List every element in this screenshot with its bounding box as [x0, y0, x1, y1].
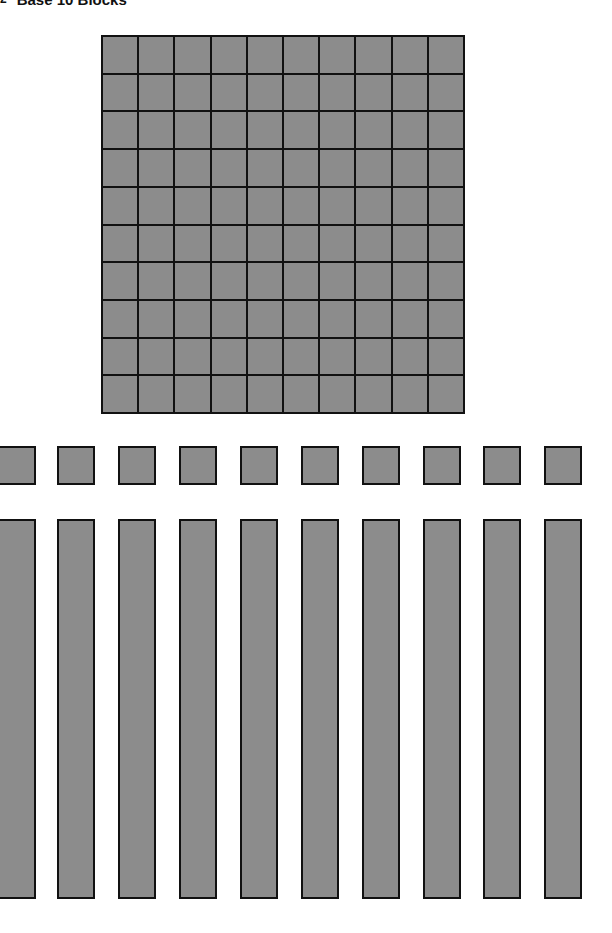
hundred-cell — [356, 263, 390, 299]
hundred-cell — [356, 188, 390, 224]
hundred-cell — [248, 339, 282, 375]
hundred-cell — [429, 150, 463, 186]
hundred-cell — [212, 226, 246, 262]
ten-rod — [483, 519, 521, 899]
ten-rod — [301, 519, 339, 899]
hundred-cell — [429, 37, 463, 73]
hundred-cell — [212, 376, 246, 412]
hundred-cell — [175, 75, 209, 111]
unit-cube — [483, 446, 521, 485]
hundred-cell — [284, 226, 318, 262]
hundred-cell — [139, 75, 173, 111]
hundred-cell — [212, 301, 246, 337]
hundred-cell — [212, 112, 246, 148]
hundred-cell — [175, 263, 209, 299]
ten-rod — [118, 519, 156, 899]
unit-cube — [240, 446, 278, 485]
hundred-cell — [212, 263, 246, 299]
hundred-cell — [139, 188, 173, 224]
hundred-cell — [103, 188, 137, 224]
hundred-cell — [356, 75, 390, 111]
unit-cube — [0, 446, 36, 485]
hundred-cell — [393, 226, 427, 262]
hundred-cell — [356, 226, 390, 262]
ten-rod — [240, 519, 278, 899]
hundred-cell — [284, 263, 318, 299]
unit-cube — [544, 446, 582, 485]
hundred-cell — [393, 188, 427, 224]
hundred-cell — [103, 376, 137, 412]
hundred-cell — [284, 188, 318, 224]
hundred-cell — [429, 75, 463, 111]
hundred-cell — [212, 150, 246, 186]
hundred-cell — [175, 339, 209, 375]
hundred-cell — [320, 301, 354, 337]
hundred-cell — [429, 226, 463, 262]
hundred-cell — [212, 188, 246, 224]
hundred-cell — [212, 37, 246, 73]
ten-rod — [57, 519, 95, 899]
hundred-cell — [139, 226, 173, 262]
hundred-cell — [320, 226, 354, 262]
hundred-cell — [175, 301, 209, 337]
hundred-cell — [175, 37, 209, 73]
unit-cube — [301, 446, 339, 485]
hundred-cell — [320, 263, 354, 299]
hundred-cell — [320, 376, 354, 412]
hundred-cell — [284, 376, 318, 412]
unit-cube — [362, 446, 400, 485]
hundred-cell — [212, 75, 246, 111]
unit-cube — [423, 446, 461, 485]
hundred-cell — [175, 188, 209, 224]
hundred-cell — [356, 37, 390, 73]
hundred-cell — [393, 263, 427, 299]
hundred-cell — [103, 112, 137, 148]
hundred-cell — [175, 150, 209, 186]
hundred-cell — [103, 263, 137, 299]
hundred-cell — [103, 339, 137, 375]
hundred-cell — [284, 339, 318, 375]
ten-rod — [179, 519, 217, 899]
ten-rod — [544, 519, 582, 899]
ten-rod — [0, 519, 36, 899]
hundred-cell — [320, 150, 354, 186]
hundred-cell — [284, 75, 318, 111]
hundred-cell — [284, 150, 318, 186]
unit-cube — [57, 446, 95, 485]
hundred-cell — [248, 301, 282, 337]
ten-rod — [362, 519, 400, 899]
hundred-cell — [139, 150, 173, 186]
hundred-cell — [393, 376, 427, 412]
unit-cube — [118, 446, 156, 485]
hundred-cell — [103, 301, 137, 337]
hundred-cell — [320, 339, 354, 375]
hundred-cell — [429, 339, 463, 375]
hundred-cell — [248, 263, 282, 299]
hundred-cell — [139, 339, 173, 375]
hundred-cell — [103, 75, 137, 111]
hundred-cell — [429, 112, 463, 148]
hundred-cell — [320, 75, 354, 111]
hundred-cell — [320, 188, 354, 224]
hundred-cell — [175, 226, 209, 262]
hundred-cell — [393, 301, 427, 337]
hundred-cell — [103, 150, 137, 186]
hundred-cell — [139, 376, 173, 412]
title-text: Base 10 Blocks — [17, 0, 127, 8]
hundred-cell — [429, 263, 463, 299]
hundred-cell — [139, 112, 173, 148]
hundred-cell — [248, 150, 282, 186]
hundred-cell — [248, 75, 282, 111]
hundred-cell — [175, 112, 209, 148]
hundred-cell — [248, 37, 282, 73]
title-marker: 2 — [0, 0, 7, 6]
hundred-cell — [103, 37, 137, 73]
hundred-cell — [103, 226, 137, 262]
page-title: 2 Base 10 Blocks — [0, 0, 127, 7]
hundred-cell — [320, 112, 354, 148]
hundred-cell — [284, 112, 318, 148]
hundred-cell — [248, 188, 282, 224]
hundred-cell — [429, 188, 463, 224]
hundred-cell — [393, 37, 427, 73]
hundred-cell — [393, 339, 427, 375]
